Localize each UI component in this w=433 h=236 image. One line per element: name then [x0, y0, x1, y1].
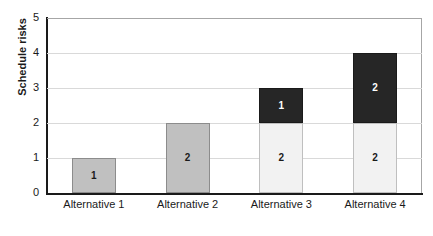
bar-segment[interactable]: 2	[353, 53, 397, 123]
x-tick-label: Alternative 4	[320, 198, 430, 210]
bar-segment[interactable]: 1	[259, 88, 303, 123]
bar-group[interactable]: 1	[72, 158, 116, 193]
bar-group[interactable]: 22	[353, 53, 397, 193]
y-tick-label: 3	[19, 82, 39, 93]
bar-segment[interactable]: 2	[259, 123, 303, 193]
x-axis-line	[46, 193, 423, 195]
y-tick-label: 5	[19, 12, 39, 23]
y-tick-label: 4	[19, 47, 39, 58]
plot-area: 122122	[47, 18, 422, 193]
bar-segment[interactable]: 2	[166, 123, 210, 193]
bar-chart: Schedule risks 122122 012345 Alternative…	[0, 0, 433, 236]
bar-group[interactable]: 2	[166, 123, 210, 193]
bar-segment[interactable]: 2	[353, 123, 397, 193]
y-tick-label: 1	[19, 152, 39, 163]
y-tick-label: 2	[19, 117, 39, 128]
bar-segment[interactable]: 1	[72, 158, 116, 193]
y-tick-label: 0	[19, 187, 39, 198]
bar-group[interactable]: 21	[259, 88, 303, 193]
bar-series: 122122	[47, 18, 422, 193]
